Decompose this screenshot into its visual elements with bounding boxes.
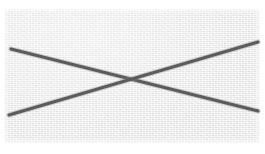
scan-canvas (0, 0, 265, 154)
x-mark-graphic (0, 0, 265, 154)
